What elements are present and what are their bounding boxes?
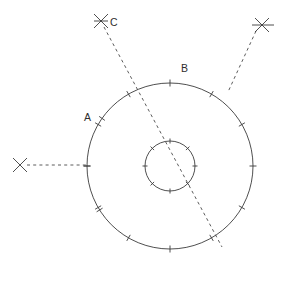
outer-tick-5 [210, 235, 214, 241]
figure-svg: A B C [0, 0, 284, 283]
outer-circle-path [87, 83, 253, 249]
sight-line-top-right [228, 31, 256, 92]
outer-tick-extra-2 [97, 208, 103, 212]
label-a: A [84, 111, 91, 123]
outer-tick-4 [239, 206, 245, 210]
outer-tick-7 [127, 235, 131, 241]
outer-tick-extra-0 [99, 116, 105, 120]
x-markers [13, 14, 274, 172]
label-c: C [110, 16, 118, 28]
outer-circle [87, 83, 253, 249]
sight-line-c [104, 27, 222, 247]
outer-circle-ticks [84, 80, 257, 253]
dashed-sight-lines [27, 27, 256, 247]
diagram-canvas: A B C [0, 0, 284, 283]
x-left [13, 158, 27, 172]
outer-tick-11 [127, 91, 131, 97]
outer-tick-8 [95, 206, 101, 210]
inner-circle-ticks [143, 139, 198, 194]
label-b: B [181, 62, 188, 74]
outer-tick-10 [95, 123, 101, 127]
outer-tick-1 [210, 91, 214, 97]
outer-tick-2 [239, 123, 245, 127]
